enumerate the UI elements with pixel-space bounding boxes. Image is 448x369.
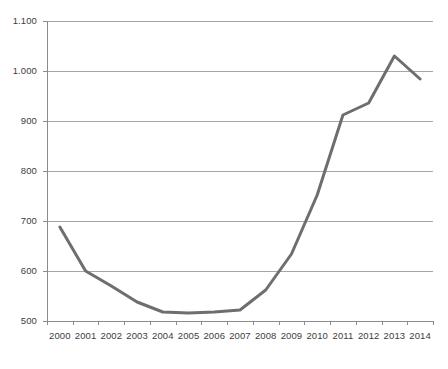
chart-axes: [47, 21, 433, 325]
y-axis-tick-label: 500: [3, 315, 37, 326]
y-axis-tick-label: 800: [3, 165, 37, 176]
series-line: [60, 56, 420, 313]
chart-canvas: [0, 0, 448, 369]
y-axis-tick-label: 1.100: [3, 15, 37, 26]
y-axis-tick-marks: [43, 22, 47, 322]
y-axis-tick-label: 700: [3, 215, 37, 226]
line-chart: 5006007008009001.0001.100 20002001200220…: [0, 0, 448, 369]
x-axis-tick-label: 2014: [405, 330, 435, 341]
gridlines: [47, 22, 433, 322]
y-axis-tick-label: 1.000: [3, 65, 37, 76]
y-axis-tick-label: 600: [3, 265, 37, 276]
data-series-line: [60, 56, 420, 313]
y-axis-tick-label: 900: [3, 115, 37, 126]
